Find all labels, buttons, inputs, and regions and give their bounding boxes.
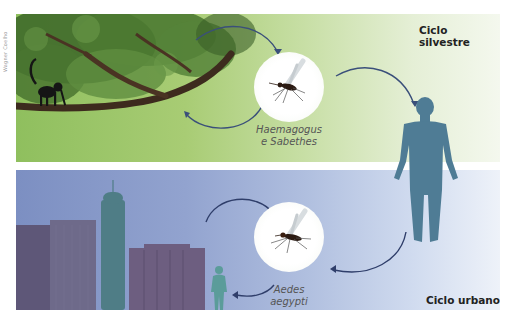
arrow-mosquito-to-human [336,68,414,104]
image-credit: Wagner Coelho [2,12,12,72]
small-human-icon [211,266,227,310]
arrow-human-to-mosquito-urban [334,232,406,272]
urban-vector-label: Aedes aegypti [256,284,322,308]
sylvatic-cycle-panel: Haemagogus e Sabethes Ciclo silvestre [16,14,500,162]
sylvatic-cycle-label: Ciclo silvestre [419,24,500,48]
mosquito-disc-urban [254,202,324,272]
mosquito-disc-sylvatic [254,52,324,122]
urban-cycle-panel: Aedes aegypti Ciclo urbano [16,170,500,310]
skyline [16,180,205,310]
sylvatic-vector-label: Haemagogus e Sabethes [252,124,326,148]
urban-cycle-label: Ciclo urbano [426,294,500,306]
